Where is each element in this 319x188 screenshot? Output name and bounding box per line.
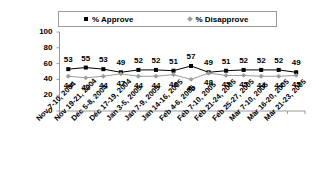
marker-disapprove: [171, 72, 176, 77]
data-label-approve: 49: [201, 59, 217, 67]
y-axis-tick-label: 80: [27, 44, 53, 52]
marker-approve: [136, 68, 140, 72]
chart-container: % Approve % Disapprove 020406080100 5355…: [0, 0, 319, 188]
marker-disapprove: [259, 74, 264, 79]
marker-approve: [259, 68, 263, 72]
marker-approve: [66, 67, 70, 71]
marker-approve: [224, 69, 228, 73]
marker-approve: [242, 68, 246, 72]
marker-approve: [84, 66, 88, 70]
y-axis-tick-label: 40: [27, 75, 53, 83]
data-label-approve: 53: [95, 56, 111, 64]
marker-disapprove: [154, 74, 159, 79]
y-axis-tick-label: 100: [27, 28, 53, 36]
data-label-approve: 52: [130, 57, 146, 65]
data-label-approve: 52: [253, 57, 269, 65]
marker-approve: [171, 69, 175, 73]
data-label-approve: 52: [148, 57, 164, 65]
y-axis-tick-label: 60: [27, 60, 53, 68]
data-label-approve: 57: [183, 53, 199, 61]
marker-disapprove: [66, 74, 71, 79]
data-label-approve: 53: [60, 56, 76, 64]
marker-disapprove: [101, 74, 106, 79]
data-label-approve: 51: [165, 58, 181, 66]
data-label-approve: 51: [218, 58, 234, 66]
marker-approve: [154, 68, 158, 72]
data-label-approve: 49: [288, 59, 304, 67]
marker-disapprove: [224, 73, 229, 78]
marker-approve: [189, 64, 193, 68]
marker-disapprove: [189, 77, 194, 82]
marker-disapprove: [136, 74, 141, 79]
y-axis-tick-label: 20: [27, 91, 53, 99]
marker-approve: [101, 67, 105, 71]
data-label-approve: 49: [113, 59, 129, 67]
data-label-approve: 52: [271, 57, 287, 65]
marker-approve: [277, 68, 281, 72]
marker-disapprove: [241, 73, 246, 78]
marker-disapprove: [276, 74, 281, 79]
data-label-approve: 52: [236, 57, 252, 65]
data-label-approve: 55: [78, 55, 94, 63]
